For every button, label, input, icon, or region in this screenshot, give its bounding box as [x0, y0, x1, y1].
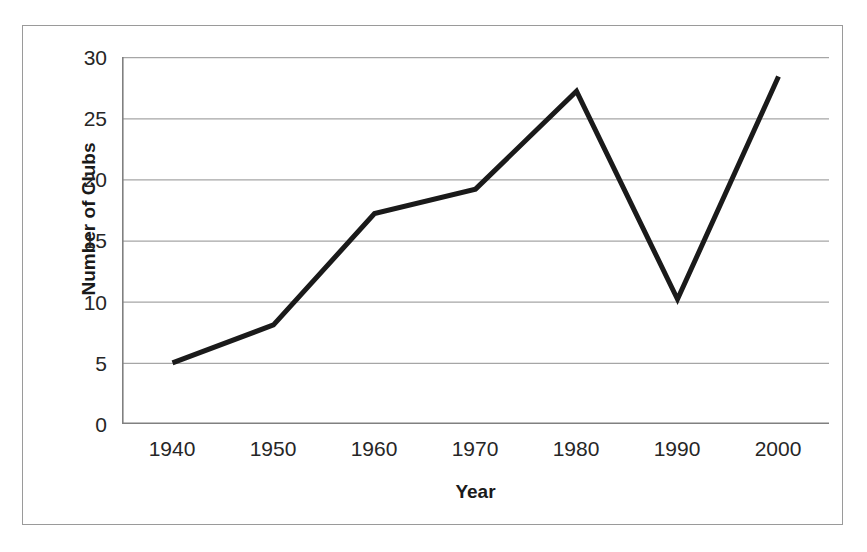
y-axis-tick-labels: 30 25 20 15 10 5 0	[57, 26, 107, 393]
y-tick-label: 0	[61, 414, 107, 435]
y-tick-label: 30	[61, 47, 107, 68]
plot-svg	[122, 57, 829, 424]
y-tick-label: 10	[61, 292, 107, 313]
x-axis-title: Year	[122, 481, 829, 503]
data-series-line	[173, 77, 779, 363]
x-tick-label: 2000	[723, 438, 833, 459]
chart-frame: Number of Clubs 30 25 20 15 10 5 0	[22, 25, 843, 525]
x-tick-label: 1940	[117, 438, 227, 459]
gridlines	[122, 58, 829, 364]
plot-area	[122, 57, 829, 424]
x-tick-label: 1980	[521, 438, 631, 459]
chart-figure: Number of Clubs 30 25 20 15 10 5 0	[0, 0, 867, 552]
y-tick-label: 5	[61, 353, 107, 374]
y-tick-label: 20	[61, 169, 107, 190]
y-tick-label: 25	[61, 108, 107, 129]
x-tick-label: 1950	[218, 438, 328, 459]
x-tick-label: 1970	[420, 438, 530, 459]
y-tick-label: 15	[61, 230, 107, 251]
x-axis-tick-labels: 1940 1950 1960 1970 1980 1990 2000	[122, 438, 829, 470]
x-tick-label: 1990	[622, 438, 732, 459]
x-tick-label: 1960	[319, 438, 429, 459]
